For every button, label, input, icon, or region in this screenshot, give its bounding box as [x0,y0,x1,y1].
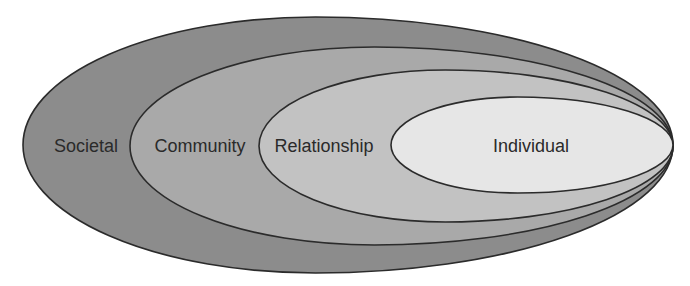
label-community: Community [154,136,245,156]
label-individual: Individual [493,136,569,156]
label-societal: Societal [54,136,118,156]
label-relationship: Relationship [274,136,373,156]
socio-ecological-model-diagram: Societal Community Relationship Individu… [0,0,690,286]
